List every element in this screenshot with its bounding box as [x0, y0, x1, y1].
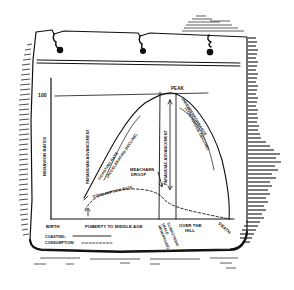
y-tick-100: 100 [38, 92, 47, 98]
continuous-decline-label: (CONTINUOUS DECLINE) [184, 107, 210, 152]
hundred-line [55, 93, 208, 96]
paper-shadow-left [19, 44, 32, 235]
paper-shadow-right [240, 38, 281, 242]
header-rule [37, 60, 240, 66]
paper-shadow-top [182, 16, 244, 31]
binding-rings [53, 34, 212, 55]
climacteric-line-1 [159, 92, 160, 219]
hand-drawn-chart-illustration: 100 BEHAVIOR RATES PEAK PARANOIAN ADVANC… [0, 0, 294, 290]
coasting-curve [84, 93, 229, 219]
consumption-rate-label: CONSUMPTION RATE [92, 185, 133, 199]
legend-coasting-label: COASTING- [45, 235, 67, 239]
legend-consumption-label: CONSUMPTION/ [45, 241, 74, 245]
x-label-birth: BIRTH [46, 224, 60, 229]
x-label-death: DEATH [217, 221, 231, 235]
y-axis-label: BEHAVIOR RATES [42, 137, 47, 176]
legend: COASTING- CONSUMPTION/ [45, 235, 112, 245]
paranoiac-advancement-label: PARANOIAC ADVANCEMENT [164, 129, 168, 185]
x-label-puberty: PUBERTY TO MIDDLE AGE [85, 224, 143, 229]
paranoian-advancement-label: PARANOIAN ADVANCEMENT [86, 128, 90, 184]
paper-shadow-bottom [34, 258, 238, 268]
x-label-over-the-hill-2: HILL [185, 228, 195, 233]
meachams-droop-label-2: DROOP [131, 172, 146, 177]
peak-label: PEAK [171, 86, 185, 91]
